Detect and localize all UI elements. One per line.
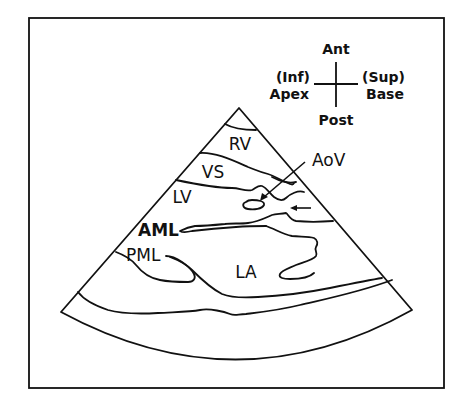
orient-ant: Ant: [322, 41, 350, 57]
label-aov: AoV: [312, 150, 346, 170]
orient-sup: (Sup): [362, 69, 405, 85]
orient-apex: Apex: [270, 86, 309, 102]
orient-inf: (Inf): [276, 69, 310, 85]
label-pml: PML: [126, 245, 161, 265]
posterior-aortic-wall: [180, 213, 333, 232]
aortic-valve-leaflet: [243, 200, 264, 209]
orient-base: Base: [366, 86, 404, 102]
label-rv: RV: [229, 134, 252, 154]
label-la: LA: [235, 262, 257, 282]
echo-diagram-figure: Ant Post (Inf) Apex (Sup) Base RV VS LV …: [0, 0, 472, 406]
chest-wall-boundary: [225, 124, 256, 130]
orientation-compass: Ant Post (Inf) Apex (Sup) Base: [270, 41, 405, 128]
septum-lv-border: [176, 180, 304, 200]
label-lv: LV: [172, 187, 192, 207]
la-posterior-wall: [170, 257, 382, 298]
label-vs: VS: [202, 162, 224, 182]
label-aml: AML: [138, 220, 179, 240]
left-atrium-border: [266, 226, 317, 279]
orient-post: Post: [319, 112, 354, 128]
arrow-horizontal-head: [290, 205, 297, 211]
